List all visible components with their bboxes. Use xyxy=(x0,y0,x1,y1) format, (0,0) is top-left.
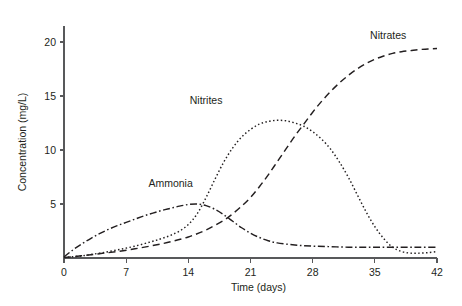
series-label-nitrites: Nitrites xyxy=(190,94,223,106)
x-axis-title: Time (days) xyxy=(231,281,286,293)
series-line-ammonia xyxy=(64,204,437,257)
x-axis-tick-label: 21 xyxy=(245,266,257,278)
series-label-nitrates: Nitrates xyxy=(370,29,406,41)
chart-plot-svg: 5101520071421283542 Time (days)Concentra… xyxy=(0,0,462,306)
y-axis-tick-label: 5 xyxy=(50,198,56,210)
chart-figure: 5101520071421283542 Time (days)Concentra… xyxy=(0,0,462,306)
x-axis-tick-label: 7 xyxy=(123,266,129,278)
x-axis-tick-label: 28 xyxy=(307,266,319,278)
chart-labels: Time (days)Concentration (mg/L)AmmoniaNi… xyxy=(16,29,406,293)
x-axis-tick-label: 0 xyxy=(61,266,67,278)
series-label-ammonia: Ammonia xyxy=(148,177,193,189)
chart-axes: 5101520071421283542 xyxy=(44,26,443,278)
y-axis-tick-label: 10 xyxy=(44,144,56,156)
y-axis-title: Concentration (mg/L) xyxy=(16,93,28,192)
x-axis-tick-label: 14 xyxy=(182,266,194,278)
series-line-nitrates xyxy=(64,48,437,257)
chart-series xyxy=(64,48,437,257)
y-axis-tick-label: 15 xyxy=(44,90,56,102)
x-axis-tick-label: 42 xyxy=(431,266,443,278)
x-axis-tick-label: 35 xyxy=(369,266,381,278)
series-line-nitrites xyxy=(64,120,437,257)
y-axis-tick-label: 20 xyxy=(44,36,56,48)
